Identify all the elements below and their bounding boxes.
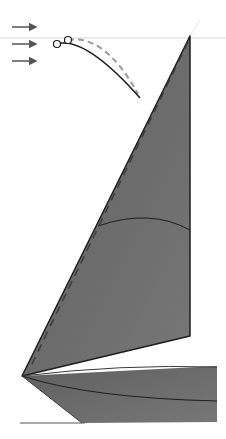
twist-curve-dashed: [68, 39, 138, 94]
twist-curve-solid: [57, 43, 140, 98]
wind-arrows: [12, 27, 36, 61]
sail-twist-diagram: [0, 0, 226, 439]
mainsail: [22, 36, 190, 376]
luff-point-icon: [65, 37, 72, 44]
masthead-extension-line: [190, 20, 200, 36]
luff-point-icon: [54, 41, 61, 48]
